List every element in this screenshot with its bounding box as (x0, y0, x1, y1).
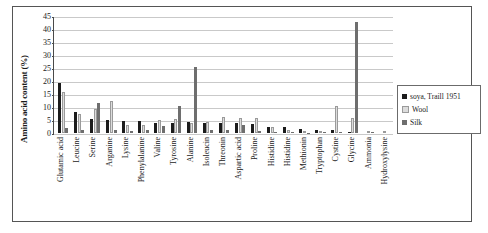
x-axis-label-cell: Leucine (69, 137, 85, 219)
y-axis-tick-mark (52, 121, 54, 122)
x-axis-label-cell: Tyrosine (166, 137, 182, 219)
x-axis-label: Glutamic acid (57, 137, 65, 182)
x-axis-label-cell: Aspartic acid (231, 137, 247, 219)
bar (203, 123, 206, 133)
x-axis-label-cell: Arganine (102, 137, 118, 219)
bar-group (152, 17, 168, 133)
bar (348, 132, 351, 133)
bar (142, 125, 145, 133)
bar (206, 122, 209, 133)
bar (283, 127, 286, 133)
x-axis-label: Threonin (219, 137, 227, 166)
bar-group (296, 17, 312, 133)
x-axis-label-cell: Ammonia (361, 137, 377, 219)
bar (383, 131, 386, 133)
y-axis-tick-label: 35 (27, 39, 51, 47)
bar (65, 128, 68, 133)
bar-group (280, 17, 296, 133)
y-axis-tick-mark (52, 108, 54, 109)
chart-legend: soya, Traill 1951WoolSilk (397, 85, 481, 134)
bar (287, 130, 290, 133)
x-axis-label: Arganine (106, 137, 114, 167)
bar (255, 118, 258, 133)
y-axis-tick-label: 30 (27, 52, 51, 60)
x-axis-label-cell: Phenylalanine (134, 137, 150, 219)
gridline (54, 134, 393, 135)
bar (114, 130, 117, 133)
x-axis-label-cell: Histidine (280, 137, 296, 219)
bar (194, 67, 197, 133)
bar (130, 131, 133, 133)
x-axis-label-cell: Threonin (215, 137, 231, 219)
x-axis-label-cell: Methionin (296, 137, 312, 219)
y-axis-tick-mark (52, 82, 54, 83)
bar (138, 121, 141, 133)
bar-group (345, 17, 361, 133)
bar (187, 122, 190, 133)
bar-group (200, 17, 216, 133)
x-axis-label-cell: Proline (247, 137, 263, 219)
x-axis-label-cell: Histidine (263, 137, 279, 219)
y-axis-tick-label: 0 (27, 130, 51, 138)
y-axis-tick-mark (52, 30, 54, 31)
bar (226, 130, 229, 133)
x-axis-label-cell: Lysine (118, 137, 134, 219)
y-axis-tick-label: 25 (27, 65, 51, 73)
y-axis-tick-label: 45 (27, 13, 51, 21)
bar (258, 131, 261, 133)
x-axis-label: Alanine (187, 137, 195, 162)
bar-group (313, 17, 329, 133)
bar (222, 117, 225, 133)
x-axis-label: Methionin (300, 137, 308, 170)
bar-group (55, 17, 71, 133)
bar (178, 106, 181, 133)
x-axis-label-cell: Glycine (344, 137, 360, 219)
bar (122, 121, 125, 133)
legend-swatch (402, 120, 407, 125)
legend-label: soya, Traill 1951 (410, 93, 461, 101)
bar (315, 130, 318, 133)
bar (81, 130, 84, 133)
y-axis-tick-label: 10 (27, 104, 51, 112)
bar (307, 133, 310, 134)
y-axis-tick-label: 40 (27, 26, 51, 34)
bar-group (248, 17, 264, 133)
x-axis-label: Lysine (122, 137, 130, 158)
chart-frame: Amino acid content (%) 05101520253035404… (12, 6, 472, 222)
bar (106, 120, 109, 133)
x-axis-label: Tryptophan (316, 137, 324, 174)
x-axis-label: Ammonia (365, 137, 373, 169)
bar (78, 114, 81, 133)
x-axis-label: Phenylalanine (138, 137, 146, 182)
bar (367, 131, 370, 133)
legend-item: soya, Traill 1951 (402, 91, 477, 102)
x-axis-label: Valine (154, 137, 162, 157)
plot-area-wrapper: 051015202530354045 (53, 17, 393, 135)
x-axis-label: Proline (251, 137, 259, 160)
bar-group (361, 17, 377, 133)
bar-group (71, 17, 87, 133)
y-axis-tick-mark (52, 43, 54, 44)
bar (291, 132, 294, 133)
bar (351, 118, 354, 133)
bar-group (103, 17, 119, 133)
bar-groups (55, 17, 393, 133)
bar-group (135, 17, 151, 133)
bar (190, 123, 193, 133)
bar-group (216, 17, 232, 133)
bar (319, 131, 322, 133)
plot-area: 051015202530354045 (53, 17, 393, 135)
bar (62, 92, 65, 133)
legend-swatch (402, 106, 409, 113)
x-axis-label: Isoleucin (203, 137, 211, 166)
bar (90, 119, 93, 133)
bar (323, 132, 326, 133)
y-axis-tick-mark (52, 95, 54, 96)
bar-group (232, 17, 248, 133)
x-axis-label-cell: Cystine (328, 137, 344, 219)
y-axis-tick-mark (52, 17, 54, 18)
legend-label: Wool (412, 106, 428, 114)
y-axis-tick-label: 20 (27, 78, 51, 86)
bar (267, 127, 270, 133)
bar (174, 119, 177, 133)
